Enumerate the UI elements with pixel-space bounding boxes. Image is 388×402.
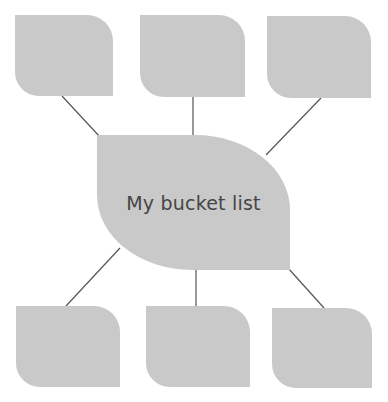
branch-node-top-right[interactable]: [267, 16, 371, 98]
central-node-label: My bucket list: [126, 192, 260, 214]
branch-node-top-left[interactable]: [15, 15, 113, 96]
branch-node-bottom-center[interactable]: [146, 306, 250, 387]
connector-bottom-left: [66, 248, 120, 306]
branch-node-bottom-left[interactable]: [16, 306, 120, 387]
connector-bottom-right: [288, 268, 324, 308]
connector-top-left: [62, 96, 100, 137]
branch-node-top-center[interactable]: [140, 15, 245, 97]
connector-top-right: [266, 98, 321, 155]
branch-node-bottom-right[interactable]: [272, 308, 372, 388]
